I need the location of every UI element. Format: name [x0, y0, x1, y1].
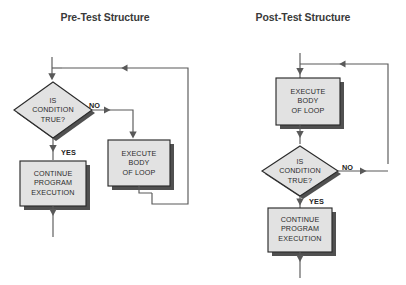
pre-test-no-edge	[92, 107, 137, 139]
post-test-execute-hit[interactable]	[276, 78, 340, 125]
pre-test-continue-hit[interactable]	[20, 161, 86, 206]
pre-test-execute-hit[interactable]	[108, 140, 170, 186]
post-test-entry-edge	[296, 53, 303, 78]
post-test-decision-hit[interactable]	[262, 146, 338, 196]
post-test-exit-edge	[296, 252, 303, 278]
post-test-chart-title: Post-Test Structure	[228, 11, 378, 23]
pre-test-decision-hit[interactable]	[14, 82, 92, 138]
pre-test-yes-edge	[49, 138, 56, 160]
flowchart-canvas	[0, 0, 406, 285]
pre-test-exit-edge	[49, 206, 56, 237]
pre-test-entry-edge	[48, 57, 62, 80]
post-test-continue-hit[interactable]	[268, 208, 332, 252]
pre-test-chart-title: Pre-Test Structure	[30, 11, 180, 23]
post-test-no-edge	[338, 168, 388, 175]
